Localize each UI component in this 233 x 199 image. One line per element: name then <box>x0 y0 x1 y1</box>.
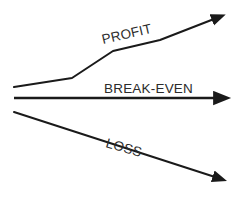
break-even-diagram: PROFIT BREAK-EVEN LOSS <box>0 0 233 199</box>
loss-label: LOSS <box>104 135 144 160</box>
chart-svg: PROFIT BREAK-EVEN LOSS <box>0 0 233 199</box>
break-even-label: BREAK-EVEN <box>104 81 193 96</box>
